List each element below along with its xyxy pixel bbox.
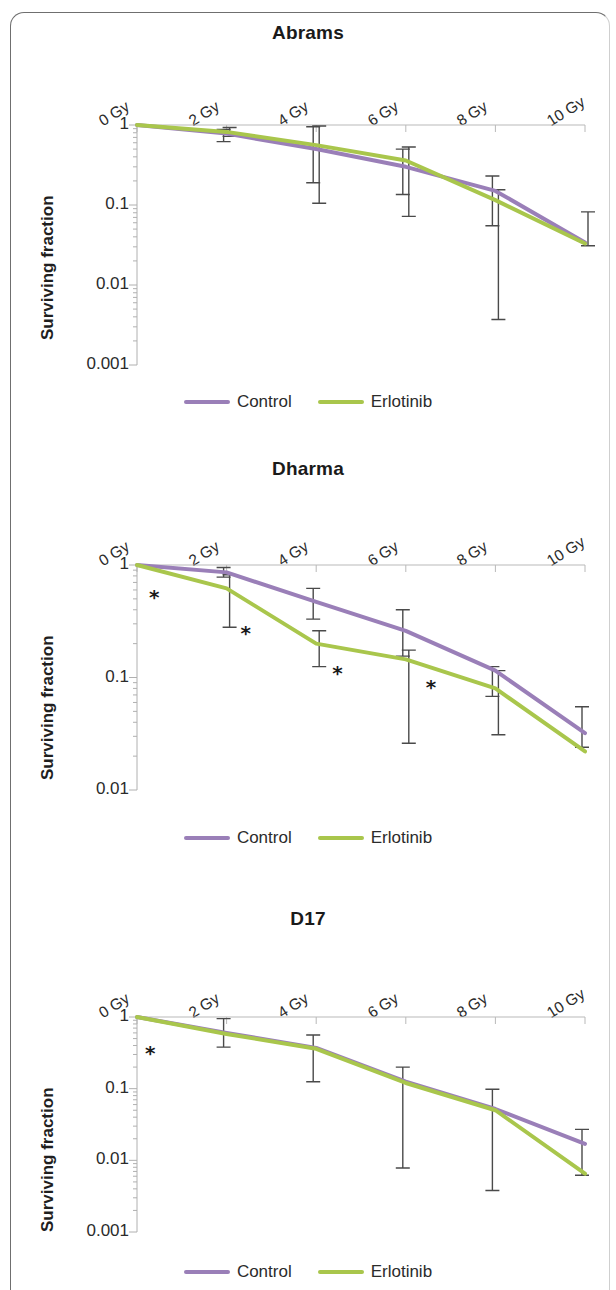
legend-label: Control xyxy=(237,828,292,848)
legend-entry-erlotinib: Erlotinib xyxy=(318,392,432,412)
legend-swatch-icon xyxy=(184,836,230,840)
chart-legend: ControlErlotinib xyxy=(0,1262,616,1282)
legend-swatch-icon xyxy=(184,1270,230,1274)
y-axis-line xyxy=(129,125,137,365)
legend-entry-control: Control xyxy=(184,1262,292,1282)
error-bar xyxy=(491,671,505,735)
chart-title: Abrams xyxy=(0,22,616,44)
significance-asterisk: * xyxy=(149,587,159,607)
y-axis-label: Surviving fraction xyxy=(38,635,58,780)
y-axis-line xyxy=(129,565,137,790)
significance-asterisk: * xyxy=(145,1043,155,1063)
error-bar xyxy=(402,650,416,743)
error-bar xyxy=(306,1035,320,1082)
y-axis-tick-label: 0.1 xyxy=(39,194,129,214)
error-bar xyxy=(312,126,326,203)
legend-entry-control: Control xyxy=(184,828,292,848)
y-axis-tick-label: 0.01 xyxy=(39,779,129,799)
legend-label: Erlotinib xyxy=(371,392,432,412)
chart-legend: ControlErlotinib xyxy=(0,392,616,412)
error-bar xyxy=(223,575,237,627)
significance-asterisk: * xyxy=(332,663,342,683)
legend-entry-erlotinib: Erlotinib xyxy=(318,828,432,848)
legend-label: Control xyxy=(237,1262,292,1282)
chart-title: D17 xyxy=(0,908,616,930)
error-bar xyxy=(491,190,505,320)
error-bar xyxy=(396,149,410,194)
y-axis-tick-label: 0.01 xyxy=(39,1149,129,1169)
legend-entry-erlotinib: Erlotinib xyxy=(318,1262,432,1282)
plot-area xyxy=(137,125,616,395)
series-line-erlotinib xyxy=(137,125,585,244)
legend-swatch-icon xyxy=(318,1270,364,1274)
legend-swatch-icon xyxy=(184,400,230,404)
y-axis-tick-label: 0.1 xyxy=(39,667,129,687)
error-bar xyxy=(306,127,320,183)
legend-entry-control: Control xyxy=(184,392,292,412)
y-axis-line xyxy=(129,1017,137,1232)
plot-area xyxy=(137,1017,616,1262)
y-axis-tick-label: 0.01 xyxy=(39,274,129,294)
legend-label: Control xyxy=(237,392,292,412)
error-bar xyxy=(402,147,416,216)
series-line-control xyxy=(137,125,585,242)
legend-swatch-icon xyxy=(318,400,364,404)
significance-asterisk: * xyxy=(241,623,251,643)
legend-label: Erlotinib xyxy=(371,1262,432,1282)
y-axis-tick-label: 0.1 xyxy=(39,1078,129,1098)
series-line-control xyxy=(137,565,585,733)
error-bar xyxy=(485,1089,499,1190)
significance-asterisk: * xyxy=(426,677,436,697)
plot-area xyxy=(137,565,616,820)
y-axis-tick-label: 0.001 xyxy=(39,1221,129,1241)
top-axis-line xyxy=(137,1017,585,1024)
chart-legend: ControlErlotinib xyxy=(0,828,616,848)
legend-swatch-icon xyxy=(318,836,364,840)
y-axis-tick-label: 0.001 xyxy=(39,354,129,374)
legend-label: Erlotinib xyxy=(371,828,432,848)
series-line-erlotinib xyxy=(137,1017,585,1174)
y-axis-label: Surviving fraction xyxy=(38,195,58,340)
series-line-erlotinib xyxy=(137,565,585,751)
error-bar xyxy=(312,631,326,667)
chart-title: Dharma xyxy=(0,458,616,480)
